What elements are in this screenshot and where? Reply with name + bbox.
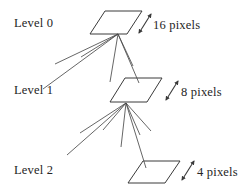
- size-arrow-level-2: [182, 161, 194, 180]
- level-0-label: Level 0: [14, 16, 53, 30]
- connector-line: [103, 103, 126, 130]
- double-arrow-diagonal-icon: [182, 161, 194, 180]
- pyramid-diagram: Level 0 Level 1 Level 2 16 pixels 8 pixe…: [0, 0, 251, 194]
- level-2-parallelogram-icon: [128, 161, 180, 183]
- level-1-size-label: 8 pixels: [181, 85, 222, 99]
- connector-line: [67, 103, 126, 155]
- connector-line: [118, 34, 139, 83]
- connector-line: [110, 34, 118, 82]
- connector-line: [126, 103, 140, 135]
- connector-line: [126, 103, 151, 131]
- connector-line: [121, 103, 126, 147]
- level-2-tile-group: [128, 161, 180, 183]
- level-0-tile-group: [90, 11, 142, 34]
- level-1-parallelogram-icon: [110, 78, 162, 102]
- double-arrow-diagonal-icon: [139, 14, 151, 33]
- level-1-tile-group: [110, 78, 162, 102]
- connector-fan-level-0: [43, 34, 139, 89]
- size-arrow-level-1: [166, 81, 178, 100]
- connector-fan-level-1: [67, 103, 151, 168]
- level-2-label: Level 2: [14, 163, 53, 177]
- connector-line: [81, 34, 118, 57]
- level-0-size-label: 16 pixels: [153, 18, 200, 32]
- connector-line: [80, 103, 126, 133]
- size-arrow-level-0: [139, 14, 151, 33]
- connector-line: [43, 34, 118, 89]
- connector-line: [126, 103, 146, 168]
- double-arrow-diagonal-icon: [166, 81, 178, 100]
- level-2-size-label: 4 pixels: [197, 165, 238, 179]
- level-0-parallelogram-icon: [90, 11, 142, 34]
- connector-line: [55, 34, 118, 64]
- level-1-label: Level 1: [14, 83, 53, 97]
